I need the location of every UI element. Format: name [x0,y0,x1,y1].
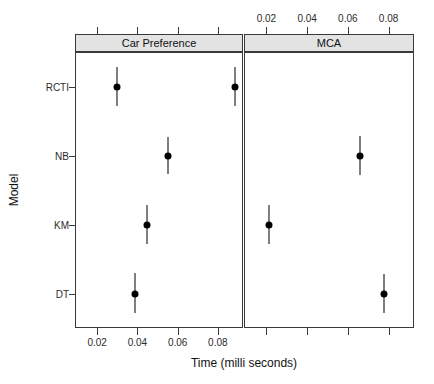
x-tick-bottom [389,328,390,335]
panel-strip-car-preference: Car Preference [75,34,243,52]
data-point-car-preference-km [144,221,151,228]
data-point-car-preference-dt [132,290,139,297]
x-tick-label: 0.02 [257,13,276,24]
x-tick-bottom [348,328,349,335]
panel-strip-label-right: MCA [317,37,341,49]
data-point-car-preference-rcti [114,83,121,90]
x-tick-top [266,27,267,34]
x-tick-label: 0.06 [168,337,187,348]
x-tick-top [348,27,349,34]
x-tick-bottom [137,328,138,335]
data-point-car-preference-nb [165,152,172,159]
x-tick-label: 0.04 [297,13,316,24]
x-tick-bottom [266,328,267,335]
x-axis-title: Time (milli seconds) [191,356,297,370]
plot-panel-mca [244,52,414,328]
chart-root: Car Preference MCA 0.020.040.060.080.020… [0,0,434,384]
y-tick-label-dt: DT [31,288,69,299]
data-point-mca-dt [381,290,388,297]
x-tick-top [389,27,390,34]
y-axis-title: Model [7,174,21,207]
y-tick [69,87,75,88]
x-tick-top [97,27,98,34]
x-tick-label: 0.08 [208,337,227,348]
y-tick-label-nb: NB [31,150,69,161]
plot-panel-car-preference [75,52,243,328]
x-tick-top [178,27,179,34]
x-tick-label: 0.04 [128,337,147,348]
x-tick-label: 0.08 [379,13,398,24]
x-tick-top [307,27,308,34]
x-tick-label: 0.02 [87,337,106,348]
panel-strip-mca: MCA [244,34,414,52]
y-tick-label-rcti: RCTI [31,81,69,92]
y-tick [69,156,75,157]
x-tick-label: 0.06 [338,13,357,24]
x-tick-bottom [178,328,179,335]
x-tick-bottom [307,328,308,335]
x-tick-bottom [97,328,98,335]
data-point-mca-rcti [231,83,238,90]
data-point-mca-km [265,221,272,228]
x-tick-bottom [218,328,219,335]
x-tick-top [137,27,138,34]
y-tick [69,225,75,226]
data-point-mca-nb [357,152,364,159]
x-tick-top [218,27,219,34]
y-tick-label-km: KM [31,219,69,230]
y-tick [69,294,75,295]
panel-strip-label-left: Car Preference [122,37,197,49]
